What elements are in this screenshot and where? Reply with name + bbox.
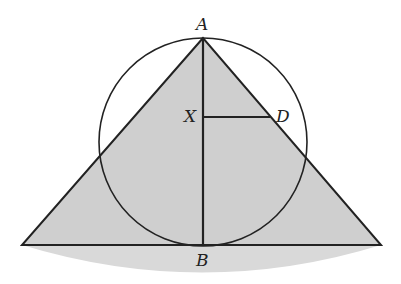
label-B: B [195,250,209,270]
geometry-diagram: A B X D [0,0,401,284]
label-A: A [194,14,208,34]
label-D: D [275,106,290,126]
label-X: X [182,106,197,126]
triangle-fill [22,38,381,245]
